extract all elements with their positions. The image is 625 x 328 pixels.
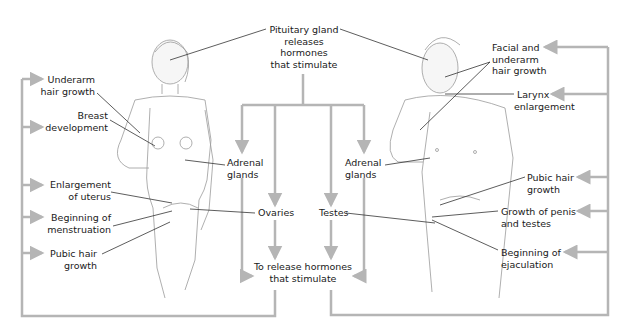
adrenal-glands-female-label: Adrenal glands	[227, 157, 263, 180]
f-label-1-line-2: development	[40, 122, 108, 134]
adrenal-right-line-2: glands	[345, 169, 381, 181]
f-label-3-line-2: menstruation	[45, 224, 111, 236]
pituitary-line-1: Pituitary gland	[258, 24, 350, 36]
adrenal-right-line-1: Adrenal	[345, 157, 381, 169]
testes-label: Testes	[319, 207, 349, 219]
m-label-2-line-1: Pubic hair	[527, 172, 574, 184]
m-label-4-line-2: ejaculation	[501, 259, 561, 271]
m-label-3-line-2: and testes	[501, 218, 576, 230]
f-label-4-line-1: Pubic hair	[45, 248, 97, 260]
female-enlargement-uterus-label: Enlargement of uterus	[45, 179, 111, 202]
ovaries-label: Ovaries	[258, 207, 294, 219]
male-penis-testes-label: Growth of penis and testes	[501, 206, 576, 229]
release-line-1: To release hormones	[252, 261, 354, 273]
female-pubic-hair-label: Pubic hair growth	[45, 248, 97, 271]
f-label-3-line-1: Beginning of	[45, 212, 111, 224]
male-pubic-hair-label: Pubic hair growth	[527, 172, 574, 195]
f-label-2-line-1: Enlargement	[45, 179, 111, 191]
female-breast-development-label: Breast development	[40, 110, 108, 133]
pituitary-line-4: that stimulate	[258, 59, 350, 71]
m-label-0-line-3: hair growth	[492, 65, 546, 77]
m-label-3-line-1: Growth of penis	[501, 206, 576, 218]
adrenal-left-line-1: Adrenal	[227, 157, 263, 169]
male-figure	[390, 38, 513, 298]
pituitary-gland-label: Pituitary gland releases hormones that s…	[258, 24, 350, 70]
female-underarm-hair-label: Underarm hair growth	[40, 74, 95, 97]
male-facial-underarm-hair-label: Facial and underarm hair growth	[492, 42, 546, 77]
adrenal-left-line-2: glands	[227, 169, 263, 181]
f-label-2-line-2: of uterus	[45, 191, 111, 203]
f-label-0-line-2: hair growth	[40, 86, 95, 98]
m-label-4-line-1: Beginning of	[501, 247, 561, 259]
pituitary-line-2: releases	[258, 36, 350, 48]
m-label-1-line-1: Larynx	[514, 89, 575, 101]
pituitary-line-3: hormones	[258, 47, 350, 59]
m-label-2-line-2: growth	[527, 184, 574, 196]
f-label-0-line-1: Underarm	[40, 74, 95, 86]
m-label-1-line-2: enlargement	[514, 101, 575, 113]
m-label-0-line-2: underarm	[492, 54, 546, 66]
f-label-1-line-1: Breast	[40, 110, 108, 122]
m-label-0-line-1: Facial and	[492, 42, 546, 54]
female-figure	[117, 40, 213, 298]
male-larynx-label: Larynx enlargement	[514, 89, 575, 112]
male-ejaculation-label: Beginning of ejaculation	[501, 247, 561, 270]
release-line-2: that stimulate	[252, 273, 354, 285]
female-menstruation-label: Beginning of menstruation	[45, 212, 111, 235]
adrenal-glands-male-label: Adrenal glands	[345, 157, 381, 180]
f-label-4-line-2: growth	[45, 260, 97, 272]
release-hormones-label: To release hormones that stimulate	[252, 261, 354, 284]
